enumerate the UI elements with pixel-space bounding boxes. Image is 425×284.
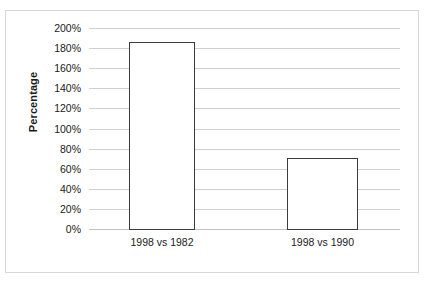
y-axis-tick-label: 100% [54, 123, 81, 135]
y-axis-tick-label: 120% [54, 102, 81, 114]
x-axis-tick-labels: 1998 vs 19821998 vs 1990 [89, 236, 400, 254]
y-axis-tick-label: 200% [54, 22, 81, 34]
y-axis-tick-label: 0% [66, 223, 81, 235]
y-axis-tick-label: 60% [60, 163, 81, 175]
gridline [89, 28, 400, 29]
y-axis-tick-label: 20% [60, 203, 81, 215]
x-axis-tick-label: 1998 vs 1990 [291, 236, 354, 248]
y-axis-tick-label: 80% [60, 143, 81, 155]
x-axis-tick-label: 1998 vs 1982 [130, 236, 193, 248]
y-axis-tick-label: 160% [54, 62, 81, 74]
y-axis-tick-label: 180% [54, 42, 81, 54]
bar[interactable] [287, 158, 358, 230]
plot-area [89, 28, 400, 229]
y-axis-tick-label: 140% [54, 82, 81, 94]
y-axis-tick-label: 40% [60, 183, 81, 195]
bar-chart-figure: Percentage 0%20%40%60%80%100%120%140%160… [0, 0, 425, 284]
y-axis-tick-labels: 0%20%40%60%80%100%120%140%160%180%200% [34, 28, 85, 229]
bar[interactable] [129, 42, 195, 230]
